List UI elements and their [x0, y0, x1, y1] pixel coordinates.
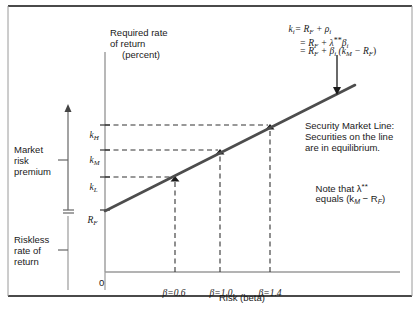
- sml-annotation-line2: Securities on the line: [305, 131, 393, 143]
- eq3-paren-open: (k: [336, 46, 346, 56]
- x-tick-value-2: 1.4: [270, 288, 282, 298]
- equation-line-3: = RF + βi (kM − RF): [290, 34, 376, 72]
- y-tick-label-RF-sub: F: [93, 219, 97, 227]
- y-axis-title-line2: of return: [110, 38, 145, 49]
- lambda-note-end: ): [382, 193, 385, 204]
- x-axis-title: Risk (beta): [219, 292, 265, 303]
- y-tick-label-kH-sub: H: [94, 134, 99, 142]
- sml-annotation-line3: are in equilibrium.: [305, 142, 380, 154]
- market-risk-premium-label: Market risk premium: [14, 144, 51, 177]
- y-axis-title-line3: (percent): [122, 49, 160, 60]
- eq3-lhs: = R: [300, 46, 315, 56]
- y-tick-label-kL: kL: [80, 171, 98, 207]
- lambda-note-line2: equals (kM − RF): [305, 181, 385, 219]
- origin-label: 0: [99, 277, 104, 288]
- sml-annotation-line1: Security Market Line:: [305, 120, 394, 132]
- y-tick-label-kM-sub: M: [94, 159, 100, 167]
- x-tick-value-0: 0.6: [174, 288, 186, 298]
- x-tick-label-beta-0-6: β=0.6: [153, 277, 186, 310]
- eq3-paren-close: ): [373, 46, 376, 56]
- riskless-rate-label: Riskless rate of return: [14, 234, 49, 267]
- figure-container: Required rate of return (percent) kH kM …: [0, 0, 420, 324]
- eq3-tail: + β: [318, 46, 334, 56]
- y-tick-label-kL-sub: L: [94, 186, 98, 194]
- lambda-note-mid: − R: [360, 193, 378, 204]
- market-risk-premium-arrowhead-top: [65, 104, 72, 112]
- y-tick-label-RF: RF: [78, 204, 98, 240]
- y-axis-title-line1: Required rate: [110, 27, 168, 38]
- lambda-note-equals: equals (k: [316, 193, 355, 204]
- eq3-minus: − R: [352, 46, 369, 56]
